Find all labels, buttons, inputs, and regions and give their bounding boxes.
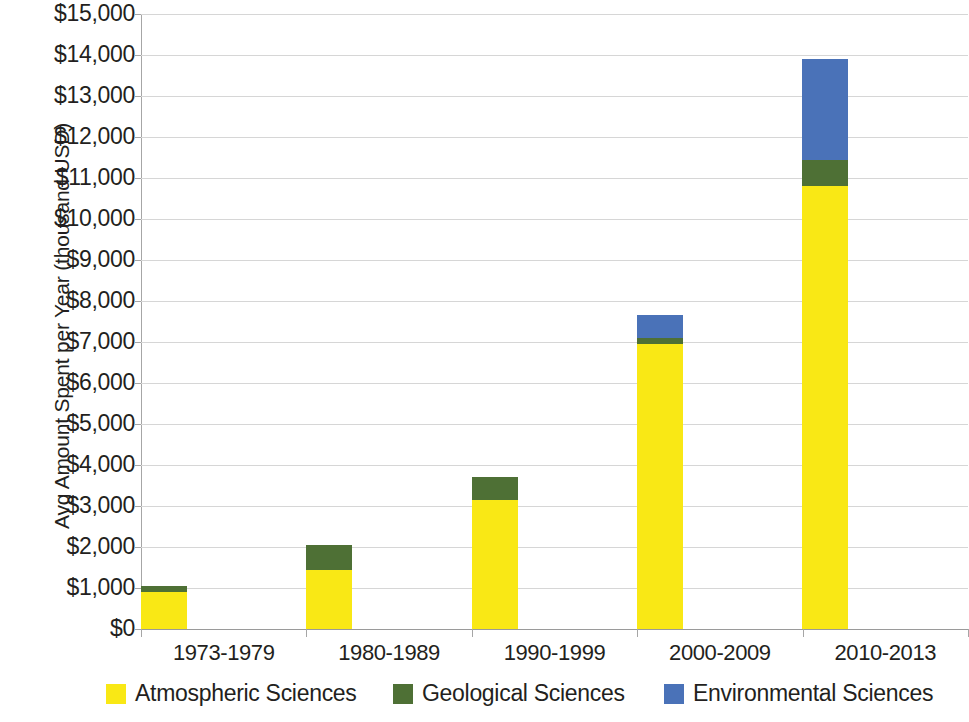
y-axis-tick-label: $12,000 — [5, 125, 135, 148]
x-axis-tick-label: 1973-1979 — [141, 640, 307, 666]
legend-swatch-icon — [106, 684, 126, 704]
y-axis-tick-label: $5,000 — [5, 412, 135, 435]
x-axis-tick-mark — [472, 629, 473, 637]
bar-segment[interactable] — [637, 338, 683, 344]
y-axis-tick-labels: $0$1,000$2,000$3,000$4,000$5,000$6,000$7… — [0, 0, 135, 722]
legend-label: Environmental Sciences — [693, 680, 933, 707]
bar-segment[interactable] — [637, 344, 683, 629]
bar-segment[interactable] — [141, 592, 187, 629]
y-axis-tick-label: $3,000 — [5, 494, 135, 517]
bar-segment[interactable] — [637, 315, 683, 338]
y-axis-tick-label: $0 — [5, 617, 135, 640]
chart-legend: Atmospheric SciencesGeological SciencesE… — [0, 680, 968, 722]
y-axis-tick-label: $9,000 — [5, 248, 135, 271]
legend-item[interactable]: Atmospheric Sciences — [106, 680, 357, 707]
bar-segment[interactable] — [306, 545, 352, 570]
y-axis-tick-label: $4,000 — [5, 453, 135, 476]
y-axis-tick-label: $1,000 — [5, 576, 135, 599]
x-axis-tick-label: 2010-2013 — [802, 640, 968, 666]
bar-group[interactable] — [306, 545, 352, 629]
x-axis-tick-mark — [306, 629, 307, 637]
x-axis-tick-label: 1980-1989 — [306, 640, 472, 666]
plot-area — [141, 14, 968, 629]
bar-segment[interactable] — [802, 186, 848, 629]
bar-segment[interactable] — [472, 477, 518, 500]
legend-item[interactable]: Environmental Sciences — [664, 680, 933, 707]
legend-swatch-icon — [393, 684, 413, 704]
y-axis-tick-label: $8,000 — [5, 289, 135, 312]
legend-label: Geological Sciences — [422, 680, 625, 707]
y-axis-tick-label: $10,000 — [5, 207, 135, 230]
x-axis-tick-label: 1990-1999 — [472, 640, 638, 666]
legend-item[interactable]: Geological Sciences — [393, 680, 625, 707]
y-axis-tick-label: $13,000 — [5, 84, 135, 107]
bars-layer — [141, 14, 968, 629]
y-axis-tick-label: $15,000 — [5, 2, 135, 25]
x-axis-tick-mark — [141, 629, 142, 637]
x-axis-tick-mark — [637, 629, 638, 637]
y-axis-tick-label: $14,000 — [5, 43, 135, 66]
bar-segment[interactable] — [802, 59, 848, 159]
x-axis-tick-label: 2000-2009 — [637, 640, 803, 666]
axis-baseline — [141, 629, 968, 630]
bar-group[interactable] — [472, 477, 518, 629]
bar-segment[interactable] — [472, 500, 518, 629]
bar-segment[interactable] — [306, 570, 352, 629]
bar-segment[interactable] — [141, 586, 187, 592]
bar-segment[interactable] — [802, 160, 848, 187]
bar-group[interactable] — [802, 59, 848, 629]
y-axis-tick-label: $7,000 — [5, 330, 135, 353]
x-axis-tick-mark — [803, 629, 804, 637]
legend-label: Atmospheric Sciences — [135, 680, 357, 707]
y-axis-tick-label: $11,000 — [5, 166, 135, 189]
bar-group[interactable] — [141, 586, 187, 629]
legend-swatch-icon — [664, 684, 684, 704]
y-axis-tick-label: $6,000 — [5, 371, 135, 394]
bar-group[interactable] — [637, 315, 683, 629]
y-axis-tick-label: $2,000 — [5, 535, 135, 558]
